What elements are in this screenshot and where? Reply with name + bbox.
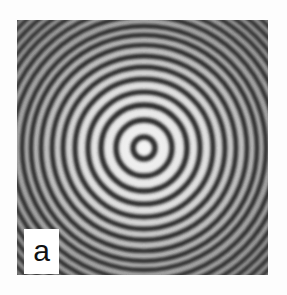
panel-label-box: a [24,229,59,274]
fringe-pattern-panel: a [17,20,268,275]
panel-label: a [24,231,59,271]
